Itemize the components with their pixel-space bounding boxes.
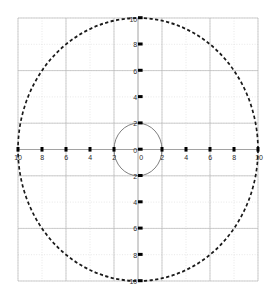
polar-circles-plot <box>0 0 277 300</box>
x-tick-label-origin: 0 <box>139 154 143 161</box>
y-tick-label: 6 <box>133 67 137 74</box>
x-tick-label: 6 <box>208 154 212 161</box>
x-tick-label: 8 <box>40 154 44 161</box>
y-tick-label: 8 <box>133 251 137 258</box>
x-tick-label: 10 <box>255 154 262 161</box>
y-tick-label: 4 <box>133 93 137 100</box>
y-tick-label: 2 <box>133 172 137 179</box>
y-tick-label: 10 <box>130 277 137 284</box>
chart-figure: 10 8 6 4 2 0 2 4 6 8 10 10 8 6 4 2 0 2 4… <box>0 0 277 300</box>
x-tick-label: 4 <box>88 154 92 161</box>
y-tick-label: 6 <box>133 225 137 232</box>
y-tick-label: 4 <box>133 199 137 206</box>
x-tick-label: 4 <box>184 154 188 161</box>
y-tick-label-origin: 0 <box>133 146 137 153</box>
y-tick-label: 2 <box>133 120 137 127</box>
x-tick-label: 10 <box>14 154 21 161</box>
y-tick-label: 10 <box>130 15 137 22</box>
x-tick-label: 8 <box>232 154 236 161</box>
x-tick-label: 6 <box>64 154 68 161</box>
y-tick-label: 8 <box>133 41 137 48</box>
x-tick-label: 2 <box>112 154 116 161</box>
x-tick-label: 2 <box>160 154 164 161</box>
